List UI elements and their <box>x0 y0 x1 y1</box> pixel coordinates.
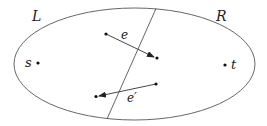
vertex-t-dot <box>223 63 226 66</box>
vertex-s-dot <box>36 61 39 64</box>
cut-diagram: L R s t e e′ <box>0 0 267 126</box>
edge-e-prime-label: e′ <box>127 92 137 104</box>
vertex-t-label: t <box>231 58 236 71</box>
vertex-s-label: s <box>25 56 32 69</box>
edge-e-prime-head-dot <box>94 95 97 98</box>
edge-e-tail-dot <box>104 32 107 35</box>
region-label-right: R <box>216 9 227 23</box>
edge-e-arrow <box>106 34 154 57</box>
edge-e-prime-tail-dot <box>154 82 157 85</box>
region-label-left: L <box>32 9 41 23</box>
edge-e-head-dot <box>155 56 158 59</box>
edge-e-label: e <box>121 29 128 41</box>
